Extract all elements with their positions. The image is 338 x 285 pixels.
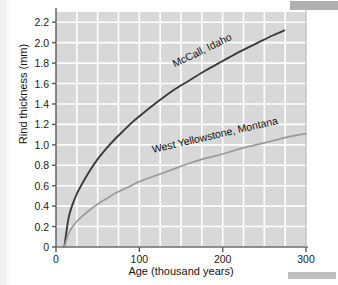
x-tick-label: 0 (39, 254, 73, 265)
x-tick-label: 300 (289, 254, 323, 265)
y-tick-label: 0.6 (23, 181, 49, 192)
figure: 00.20.40.60.81.01.21.41.61.82.02.2 01002… (0, 0, 338, 285)
y-tick-label: 2.2 (23, 17, 49, 28)
y-tick-label: 0.4 (23, 201, 49, 212)
y-tick-label: 0.2 (23, 222, 49, 233)
y-tick-label: 0 (23, 242, 49, 253)
x-tick-label: 200 (206, 254, 240, 265)
x-tick-label: 100 (122, 254, 156, 265)
y-axis-title: Rind thickness (mm) (17, 38, 29, 150)
y-tick-label: 0.8 (23, 160, 49, 171)
x-axis-title: Age (thousand years) (56, 265, 306, 277)
